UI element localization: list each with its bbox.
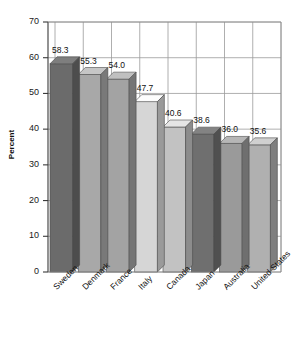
y-tick-label: 10 xyxy=(17,231,39,240)
bar-value-label: 55.3 xyxy=(80,57,97,66)
bar-value-label: 58.3 xyxy=(52,46,69,55)
bar-united-states xyxy=(248,138,278,272)
bar-france xyxy=(107,72,137,272)
bar-sweden xyxy=(50,57,80,272)
y-tick-label: 30 xyxy=(17,160,39,169)
bar-denmark xyxy=(78,68,108,273)
y-tick-label: 60 xyxy=(17,53,39,62)
y-tick-label: 50 xyxy=(17,88,39,97)
bar-canada xyxy=(163,120,193,272)
bar-australia xyxy=(220,136,250,272)
bar-value-label: 54.0 xyxy=(109,61,126,70)
bar-value-label: 38.6 xyxy=(193,116,210,125)
bar-value-label: 35.6 xyxy=(250,127,267,136)
bar-chart-figure: Percent 010203040506070 58.355.354.047.7… xyxy=(0,0,294,354)
plot-area xyxy=(0,0,294,354)
y-tick-label: 20 xyxy=(17,196,39,205)
bar-value-label: 36.0 xyxy=(222,125,239,134)
y-tick-label: 0 xyxy=(17,267,39,276)
bar-japan xyxy=(191,127,221,272)
bar-italy xyxy=(135,95,165,272)
bars xyxy=(50,57,277,272)
bar-value-label: 47.7 xyxy=(137,84,154,93)
y-tick-label: 40 xyxy=(17,124,39,133)
y-tick-label: 70 xyxy=(17,17,39,26)
bar-value-label: 40.6 xyxy=(165,109,182,118)
